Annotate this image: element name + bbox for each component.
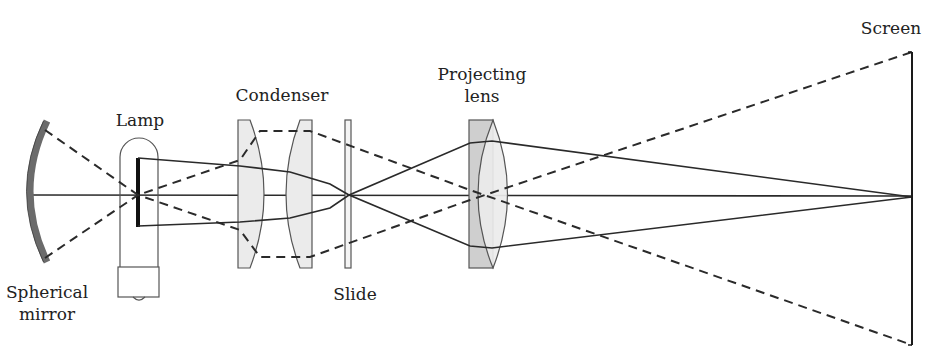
- label-screen: Screen: [856, 18, 926, 38]
- condenser-lens-1: [238, 120, 264, 268]
- label-spherical-mirror-line1: Spherical: [4, 282, 90, 302]
- condenser-lens-2: [286, 120, 312, 268]
- label-condenser: Condenser: [228, 85, 336, 105]
- label-projecting-lens-line1: Projecting: [432, 64, 532, 84]
- projector-optics-diagram: [0, 0, 929, 358]
- label-projecting-lens-line2: lens: [432, 86, 532, 106]
- lamp-base-icon: [118, 267, 159, 297]
- label-slide: Slide: [330, 284, 380, 304]
- label-projecting-lens: Projecting lens: [432, 64, 532, 106]
- label-lamp: Lamp: [110, 110, 170, 130]
- label-spherical-mirror: Spherical mirror: [4, 282, 90, 324]
- spherical-mirror-icon: [30, 121, 47, 262]
- label-spherical-mirror-line2: mirror: [4, 304, 90, 324]
